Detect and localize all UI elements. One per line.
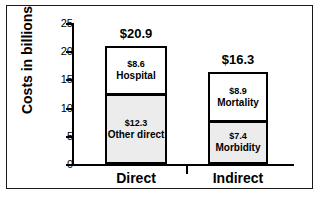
y-axis-label-15: 15 (51, 74, 73, 85)
bar-indirect: $8.9 Mortality $7.4 Morbidity (208, 72, 268, 164)
bar-segment-mortality-value: $8.9 (229, 86, 247, 97)
bar-total-label-direct: $20.9 (96, 26, 176, 41)
y-axis-label-10: 10 (51, 103, 73, 114)
y-axis-title: Costs in billions (19, 0, 35, 130)
x-axis-category-divider-tick (186, 166, 188, 174)
x-axis-line (72, 164, 294, 166)
bar-segment-morbidity-value: $7.4 (229, 131, 247, 142)
bar-segment-morbidity-label: Morbidity (216, 142, 261, 154)
bar-segment-morbidity: $7.4 Morbidity (208, 121, 268, 164)
y-axis-label-25: 25 (51, 18, 73, 29)
y-axis-label-0: 0 (51, 159, 73, 170)
bar-segment-other-direct: $12.3 Other direct (105, 94, 167, 164)
bar-segment-mortality-label: Mortality (217, 97, 259, 109)
bar-total-label-indirect: $16.3 (198, 52, 278, 67)
bar-segment-hospital-label: Hospital (116, 70, 155, 82)
bar-segment-other-direct-label: Other direct (108, 129, 165, 141)
bar-segment-other-direct-value: $12.3 (125, 118, 148, 129)
chart-figure: Costs in billions 25 20 15 10 5 0 (0, 0, 321, 203)
x-axis-label-indirect: Indirect (198, 170, 278, 186)
x-axis-label-direct: Direct (96, 170, 176, 186)
plot-area: Costs in billions 25 20 15 10 5 0 (0, 0, 321, 203)
bar-segment-hospital: $8.6 Hospital (105, 46, 167, 95)
bar-direct: $8.6 Hospital $12.3 Other direct (105, 46, 167, 164)
bar-segment-mortality: $8.9 Mortality (208, 72, 268, 122)
y-axis-label-5: 5 (51, 131, 73, 142)
y-axis-label-20: 20 (51, 46, 73, 57)
bar-segment-hospital-value: $8.6 (127, 59, 145, 70)
